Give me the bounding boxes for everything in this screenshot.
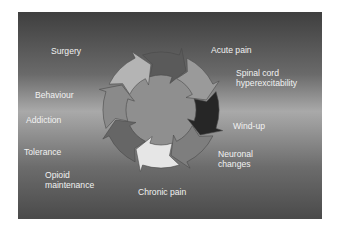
- label-spinal-cord-line1: Spinal cord: [236, 68, 297, 78]
- label-tolerance: Tolerance: [24, 147, 61, 157]
- label-addiction: Addiction: [26, 115, 61, 125]
- label-behaviour: Behaviour: [35, 90, 74, 100]
- label-acute-pain: Acute pain: [211, 45, 252, 55]
- label-opioid-line2: maintenance: [45, 180, 94, 190]
- label-spinal-cord-line2: hyperexcitability: [236, 78, 297, 88]
- label-opioid-maintenance: Opioid maintenance: [45, 170, 94, 190]
- label-neuronal-changes: Neuronal changes: [218, 149, 253, 169]
- label-spinal-cord: Spinal cord hyperexcitability: [236, 68, 297, 88]
- label-chronic-pain: Chronic pain: [138, 187, 186, 197]
- label-wind-up: Wind-up: [233, 121, 265, 131]
- label-neuronal-line2: changes: [218, 159, 253, 169]
- label-opioid-line1: Opioid: [45, 170, 94, 180]
- slide: Surgery Acute pain Spinal cord hyperexci…: [18, 12, 322, 219]
- label-neuronal-line1: Neuronal: [218, 149, 253, 159]
- label-surgery: Surgery: [51, 46, 81, 56]
